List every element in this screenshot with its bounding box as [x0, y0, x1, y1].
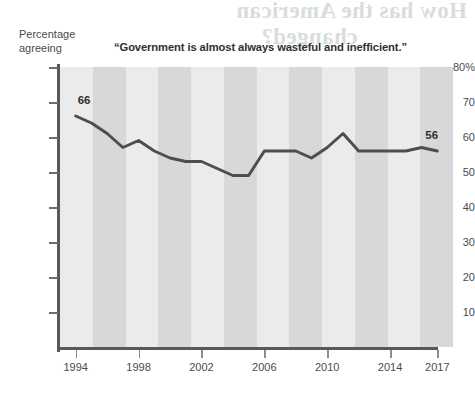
- background-band: [191, 67, 224, 347]
- x-axis-tick: [201, 350, 203, 358]
- x-axis-tick: [264, 350, 266, 358]
- y-axis-caption-line-1: Percentage: [19, 27, 75, 41]
- bleed-heading-line-1: How has the American: [236, 0, 467, 24]
- y-axis-tick: [49, 242, 58, 244]
- background-band: [158, 67, 191, 347]
- y-axis-tick: [49, 207, 58, 209]
- x-axis-tick-label: 2014: [378, 361, 402, 373]
- chart-title: “Government is almost always wasteful an…: [0, 41, 475, 53]
- x-axis-tick: [390, 350, 392, 358]
- x-axis-tick-label: 2010: [315, 361, 339, 373]
- x-axis-tick-label: 1998: [126, 361, 150, 373]
- y-axis-tick-label: 50: [431, 166, 475, 178]
- background-band: [60, 67, 93, 347]
- y-axis-tick-label: 20: [431, 271, 475, 283]
- y-axis-tick: [49, 172, 58, 174]
- background-band: [224, 67, 257, 347]
- background-band: [257, 67, 290, 347]
- x-axis-tick: [76, 350, 78, 358]
- background-band: [355, 67, 388, 347]
- x-axis-tick-label: 2017: [425, 361, 449, 373]
- background-band: [322, 67, 355, 347]
- y-axis-tick: [49, 277, 58, 279]
- x-axis-tick: [139, 350, 141, 358]
- y-axis-tick: [49, 312, 58, 314]
- y-axis-tick: [49, 137, 58, 139]
- background-band: [93, 67, 126, 347]
- x-axis-line: [57, 347, 438, 350]
- y-axis-tick-label: 80%: [431, 61, 475, 73]
- data-label-end: 56: [425, 129, 438, 141]
- background-bands: [60, 67, 453, 347]
- y-axis-tick: [49, 102, 58, 104]
- data-label-start: 66: [78, 94, 91, 106]
- x-axis-tick: [327, 350, 329, 358]
- x-axis-tick-label: 2006: [252, 361, 276, 373]
- y-axis-tick-label: 30: [431, 236, 475, 248]
- x-axis-tick-label: 1994: [63, 361, 87, 373]
- y-axis-tick: [49, 67, 58, 69]
- background-band: [289, 67, 322, 347]
- background-band: [388, 67, 421, 347]
- y-axis-tick-label: 40: [431, 201, 475, 213]
- background-band: [126, 67, 159, 347]
- x-axis-tick: [437, 350, 439, 358]
- plot-area: [60, 67, 453, 347]
- y-axis-tick-label: 10: [431, 306, 475, 318]
- y-axis-tick-label: 70: [431, 96, 475, 108]
- x-axis-tick-label: 2002: [189, 361, 213, 373]
